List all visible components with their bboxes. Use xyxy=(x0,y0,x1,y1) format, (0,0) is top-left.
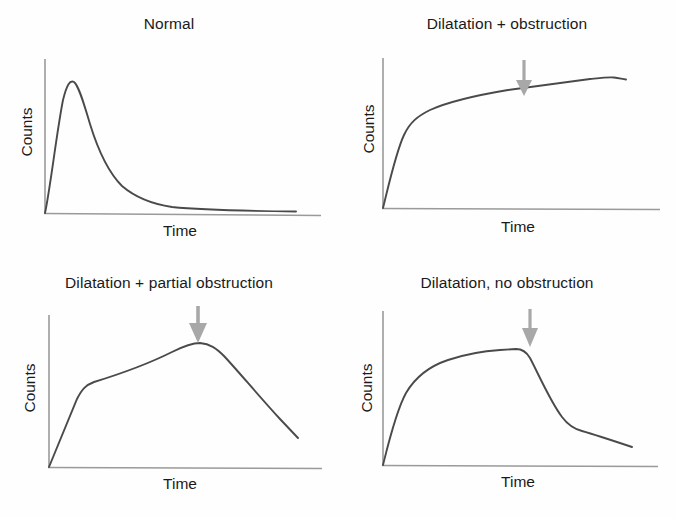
renogram-curve-dilatation-no-obstruction xyxy=(383,349,632,465)
x-axis-line xyxy=(382,466,658,467)
diuretic-arrow-icon xyxy=(516,60,532,96)
diuretic-arrow-icon xyxy=(189,306,207,343)
renogram-curve-normal xyxy=(45,82,296,213)
panel-dilatation-no-obstruction: Dilatation, no obstruction Counts Time xyxy=(338,259,676,518)
plot-normal xyxy=(0,0,338,259)
diuretic-arrow-icon xyxy=(522,309,538,347)
x-axis-line xyxy=(48,468,322,469)
x-axis-line xyxy=(382,209,660,210)
four-panel-renogram-figure: Normal Counts Time Dilatation + obstruct… xyxy=(0,0,676,518)
plot-dilatation-obstruction xyxy=(338,0,676,259)
renogram-curve-dilatation-obstruction xyxy=(383,77,626,208)
plot-dilatation-no-obstruction xyxy=(338,259,676,518)
panel-normal: Normal Counts Time xyxy=(0,0,338,259)
panel-dilatation-partial-obstruction: Dilatation + partial obstruction Counts … xyxy=(0,259,338,518)
x-axis-line xyxy=(44,214,321,216)
panel-dilatation-obstruction: Dilatation + obstruction Counts Time xyxy=(338,0,676,259)
renogram-curve-dilatation-partial-obstruction xyxy=(49,343,298,467)
plot-dilatation-partial-obstruction xyxy=(0,259,338,518)
